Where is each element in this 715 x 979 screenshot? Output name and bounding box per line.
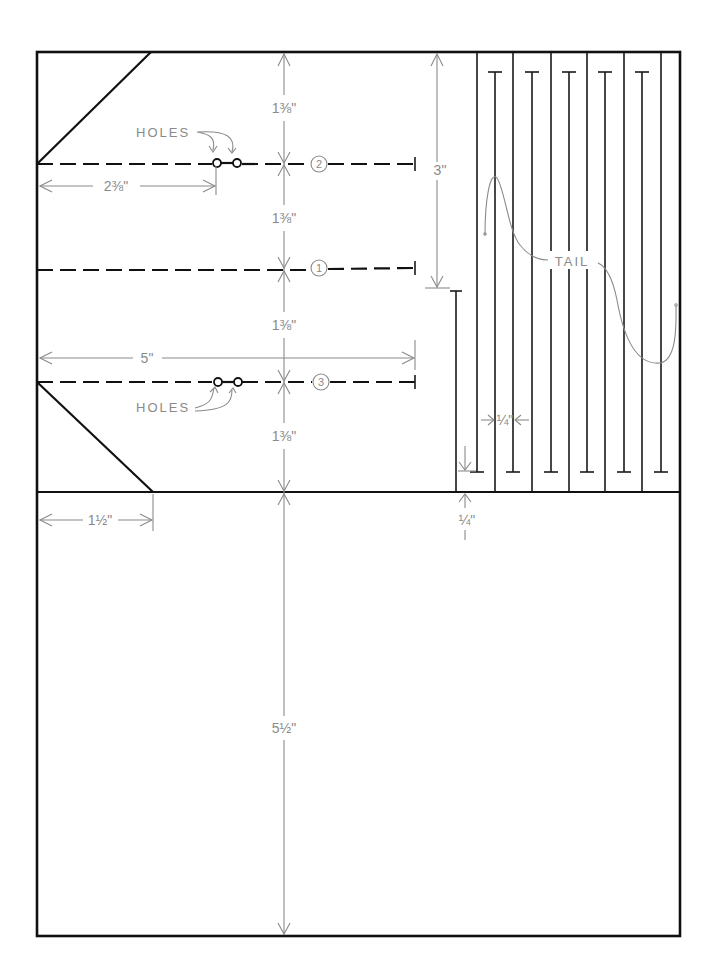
- dim-fold-spacing-2: 1⅜": [272, 210, 296, 226]
- hole: [234, 378, 242, 386]
- dim-fold-spacing-1: 1⅜": [272, 100, 296, 116]
- dim-strip-width: ¼": [497, 412, 514, 428]
- dim-fold-spacing-4: 1⅜": [272, 428, 296, 444]
- fold-line-3: 3: [37, 374, 415, 390]
- fold-number: 3: [318, 376, 324, 388]
- tail-label: TAIL: [555, 254, 590, 269]
- vertical-dimension-axis: [278, 53, 290, 935]
- fold-line-2: 2: [37, 156, 415, 172]
- holes-label-bottom: HOLES: [136, 400, 190, 415]
- dim-fold-length-line: [40, 340, 415, 370]
- bottom-corner-cut: [37, 382, 153, 492]
- hole: [214, 378, 222, 386]
- dim-fold-length: 5": [141, 350, 154, 366]
- fold-line-1: 1: [37, 260, 415, 276]
- dim-fold-spacing-3: 1⅜": [272, 317, 296, 333]
- holes-label-top: HOLES: [136, 125, 190, 140]
- hole: [213, 159, 221, 167]
- dim-hole-offset: 2⅜": [104, 178, 128, 194]
- dim-corner-cut: 1½": [88, 512, 112, 528]
- dim-tail-slit: 3": [434, 162, 447, 178]
- fold-number: 1: [316, 262, 322, 274]
- dim-bottom-panel: 5½": [272, 720, 296, 736]
- outer-frame: [37, 52, 680, 936]
- tail-curve: [598, 263, 676, 363]
- fold-number: 2: [316, 158, 322, 170]
- holes-leader: [195, 388, 232, 411]
- top-corner-cut: [37, 52, 151, 164]
- pattern-diagram: 2 1 3 HOLES HOLES 1⅜" 1⅜" 1⅜": [0, 0, 715, 979]
- tail-strips: [450, 53, 668, 492]
- hole: [233, 159, 241, 167]
- dim-slit-margin: ¼": [459, 512, 476, 528]
